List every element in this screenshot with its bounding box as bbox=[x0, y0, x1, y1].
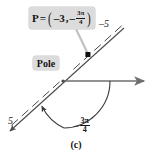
point-marker-p bbox=[85, 52, 90, 57]
open-paren: ( bbox=[48, 10, 52, 27]
pole-marker bbox=[61, 79, 64, 82]
polar-coordinate-figure: P = ( –3 , – 3π 4 ) Pole –5 5 – 3π 4 (c) bbox=[0, 0, 152, 160]
point-angle-numerator: 3π bbox=[76, 10, 85, 17]
point-radius-value: –3 bbox=[54, 12, 65, 24]
point-angle-sign: – bbox=[69, 12, 75, 24]
tick-label-five: 5 bbox=[8, 116, 13, 126]
angle-sign: – bbox=[74, 121, 79, 130]
point-coordinate-label: P = ( –3 , – 3π 4 ) bbox=[29, 7, 95, 29]
point-equals: = bbox=[40, 12, 46, 24]
radial-axis-ticks bbox=[11, 26, 121, 126]
angle-numerator: 3π bbox=[80, 117, 90, 125]
angle-fraction: 3π 4 bbox=[80, 117, 90, 135]
point-variable: P bbox=[32, 12, 39, 24]
pole-label: Pole bbox=[33, 56, 59, 70]
figure-caption: (c) bbox=[0, 140, 152, 150]
tick-label-negative-five: –5 bbox=[99, 19, 109, 29]
angle-denominator: 4 bbox=[82, 126, 88, 134]
point-angle-fraction: 3π 4 bbox=[76, 10, 85, 26]
point-label-leader-line bbox=[76, 29, 88, 53]
radial-axis-line bbox=[10, 26, 124, 131]
close-paren: ) bbox=[87, 10, 91, 27]
angle-measure-label: – 3π 4 bbox=[74, 117, 90, 135]
point-angle-denominator: 4 bbox=[78, 19, 84, 26]
